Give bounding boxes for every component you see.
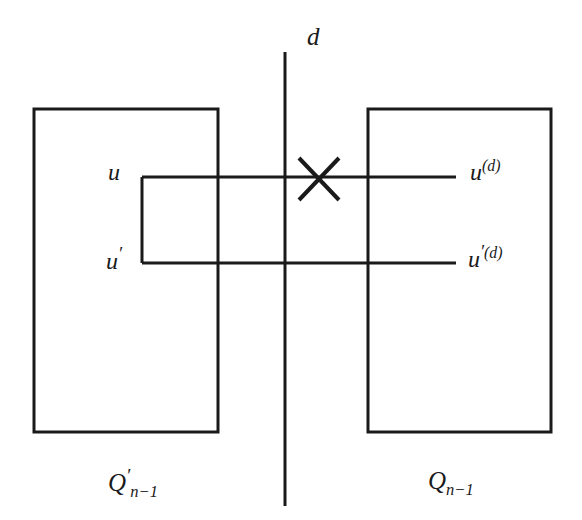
label-dimension-d: d xyxy=(307,24,320,49)
label-vertex-u-prime-d-base: u xyxy=(468,246,480,272)
figure-canvas: d u u′ u(d) u′(d) Q′n−1 Qn−1 xyxy=(0,0,582,520)
label-vertex-u: u xyxy=(108,160,120,184)
label-vertex-u-prime-d: u′(d) xyxy=(468,243,503,271)
cross-mark-icon xyxy=(299,158,339,200)
label-vertex-u-prime: u′ xyxy=(106,245,122,273)
label-dimension-d-text: d xyxy=(307,23,320,50)
label-vertex-u-prime-d-sup: (d) xyxy=(484,244,502,261)
label-right-subcube-sub: n−1 xyxy=(446,480,474,499)
label-vertex-u-prime-mark: ′ xyxy=(118,243,122,264)
label-left-subcube-base: Q xyxy=(108,469,126,496)
label-left-subcube: Q′n−1 xyxy=(108,466,158,501)
label-vertex-u-base: u xyxy=(108,159,120,185)
label-right-subcube-base: Q xyxy=(428,467,446,494)
left-subcube-box xyxy=(34,109,218,432)
label-vertex-u-d-sup: (d) xyxy=(482,157,500,174)
label-vertex-u-d-base: u xyxy=(470,159,482,185)
right-subcube-box xyxy=(368,109,551,432)
label-vertex-u-d: u(d) xyxy=(470,158,500,184)
label-vertex-u-prime-base: u xyxy=(106,248,118,274)
label-left-subcube-sub: n−1 xyxy=(130,482,158,501)
label-right-subcube: Qn−1 xyxy=(428,468,474,499)
